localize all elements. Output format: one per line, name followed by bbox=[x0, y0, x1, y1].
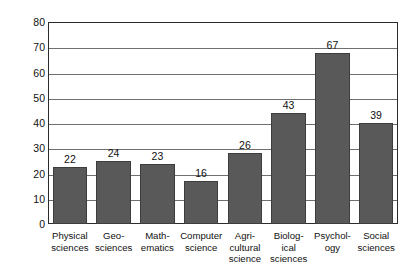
x-tick-label: Math-ematics bbox=[133, 230, 183, 253]
y-tick-40: 40 bbox=[3, 117, 45, 129]
y-tick-30: 30 bbox=[3, 142, 45, 154]
x-tick-label-line: sciences bbox=[89, 242, 139, 254]
y-tick-0: 0 bbox=[3, 218, 45, 230]
x-tick-label: Psychol-ogy bbox=[308, 230, 358, 253]
x-tick-label-line: Geo- bbox=[89, 230, 139, 242]
x-tick-label-line: ematics bbox=[133, 242, 183, 254]
bar-value-label: 16 bbox=[184, 167, 219, 179]
x-tick-label-line: Agri- bbox=[220, 230, 270, 242]
x-tick-label-line: Biolog- bbox=[264, 230, 314, 242]
x-tick-label: Socialsciences bbox=[351, 230, 401, 253]
x-tick-label: Computerscience bbox=[176, 230, 226, 253]
bar-value-label: 22 bbox=[53, 153, 88, 165]
x-tick-label-line: Social bbox=[351, 230, 401, 242]
y-tick-20: 20 bbox=[3, 168, 45, 180]
x-tick-label: Geo-sciences bbox=[89, 230, 139, 253]
x-tick-label: Agri-culturalscience bbox=[220, 230, 270, 265]
bar-value-label: 43 bbox=[271, 99, 306, 111]
bar bbox=[315, 53, 350, 224]
x-tick-label-line: science bbox=[220, 253, 270, 265]
x-tick-label-line: science bbox=[176, 242, 226, 254]
x-axis-tick-labels: PhysicalsciencesGeo-sciencesMath-ematics… bbox=[48, 230, 398, 278]
x-tick-label-line: Math- bbox=[133, 230, 183, 242]
bar-value-label: 23 bbox=[140, 150, 175, 162]
bar-value-label: 24 bbox=[96, 147, 131, 159]
x-tick-label: Biolog-icalsciences bbox=[264, 230, 314, 265]
y-tick-70: 70 bbox=[3, 41, 45, 53]
bar bbox=[140, 164, 175, 224]
bar bbox=[184, 181, 219, 224]
y-tick-60: 60 bbox=[3, 67, 45, 79]
x-tick-label-line: ical bbox=[264, 242, 314, 254]
x-tick-label-line: Physical bbox=[45, 230, 95, 242]
bar bbox=[228, 153, 263, 224]
bar-chart-figure: Percent 01020304050607080 22242316264367… bbox=[0, 0, 416, 280]
x-tick-label-line: Computer bbox=[176, 230, 226, 242]
x-tick-label: Physicalsciences bbox=[45, 230, 95, 253]
x-tick-label-line: cultural bbox=[220, 242, 270, 254]
y-axis-tick-labels: 01020304050607080 bbox=[0, 22, 45, 224]
x-tick-label-line: sciences bbox=[351, 242, 401, 254]
x-tick-label-line: sciences bbox=[45, 242, 95, 254]
bar bbox=[96, 161, 131, 224]
x-tick-label-line: sciences bbox=[264, 253, 314, 265]
bar-value-label: 67 bbox=[315, 39, 350, 51]
y-tick-80: 80 bbox=[3, 16, 45, 28]
bar-value-label: 26 bbox=[228, 139, 263, 151]
bar bbox=[271, 113, 306, 224]
bars-layer: 2224231626436739 bbox=[48, 22, 398, 224]
x-tick-label-line: ogy bbox=[308, 242, 358, 254]
x-tick-label-line: Psychol- bbox=[308, 230, 358, 242]
y-tick-50: 50 bbox=[3, 92, 45, 104]
bar bbox=[359, 123, 394, 224]
bar bbox=[53, 167, 88, 224]
y-tick-10: 10 bbox=[3, 193, 45, 205]
bar-value-label: 39 bbox=[359, 109, 394, 121]
